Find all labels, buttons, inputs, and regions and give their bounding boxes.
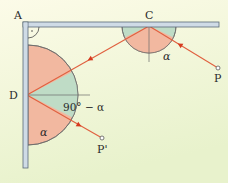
label-d: D (9, 89, 18, 102)
point-p-marker (216, 66, 220, 70)
label-c: C (145, 9, 153, 22)
right-angle-dot (31, 30, 33, 32)
two-mirror-reflection-diagram: A C P D P' α α 90° − α (0, 0, 230, 191)
label-alpha-d: α (40, 126, 48, 139)
label-90-minus-alpha: 90° − α (63, 101, 104, 113)
label-alpha-c: α (163, 50, 171, 63)
horizontal-mirror (23, 22, 219, 27)
point-p-prime-marker (100, 136, 104, 140)
vertical-mirror (23, 22, 28, 168)
label-p-prime: P' (97, 143, 107, 156)
label-a: A (13, 9, 23, 22)
label-p: P (214, 72, 222, 85)
